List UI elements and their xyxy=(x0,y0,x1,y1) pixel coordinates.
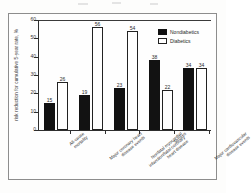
scan-artifact-3 xyxy=(150,3,158,5)
y-tick-label: 40 xyxy=(30,53,36,60)
x-axis-label-major-chd-events: Major coronary heart disease events xyxy=(108,131,146,165)
bar-value: 26 xyxy=(60,76,66,82)
bar-diabetics-major-cvd-events: 34 xyxy=(196,68,207,130)
y-tick-label: 20 xyxy=(30,89,36,96)
y-tick-label: 30 xyxy=(30,71,36,78)
legend-swatch-diabetics-icon xyxy=(158,38,167,44)
y-axis-title: risk reduction for cumulative 5-year rat… xyxy=(14,0,24,20)
plot-area: 60 50 40 30 20 10 0 xyxy=(38,20,211,130)
y-tick-label: 50 xyxy=(30,34,36,41)
x-axis-label-all-cause-mortality: All-cause mortality xyxy=(68,131,89,151)
y-tick-label: 10 xyxy=(30,108,36,115)
bar-diabetics-strokes: 22 xyxy=(162,90,173,130)
bar-value: 54 xyxy=(130,25,136,31)
y-axis-title-text: risk reduction for cumulative 5-year rat… xyxy=(14,20,19,130)
bar-value: 34 xyxy=(186,62,192,68)
bar-value: 56 xyxy=(95,21,101,27)
bar-nondiabetics-major-cvd-events: 34 xyxy=(183,68,194,130)
plot-top-border xyxy=(38,20,211,21)
x-axis-labels: All-cause mortality Major coronary heart… xyxy=(38,131,211,179)
bar-diabetics-all-cause-mortality: 26 xyxy=(57,82,68,130)
bar-value: 23 xyxy=(117,82,123,88)
bar-value: 38 xyxy=(152,54,158,60)
bar-value: 22 xyxy=(165,84,171,90)
bar-nondiabetics-all-cause-mortality: 15 xyxy=(44,103,55,131)
bar-nondiabetics-nonfatal-mi-fatal-chd: 23 xyxy=(114,88,125,130)
legend: Nondiabetics Diabetics xyxy=(156,26,201,48)
legend-label-nondiabetics: Nondiabetics xyxy=(170,29,199,35)
bar-diabetics-nonfatal-mi-fatal-chd: 54 xyxy=(127,31,138,130)
bar-value: 34 xyxy=(199,62,205,68)
bar-nondiabetics-strokes: 38 xyxy=(149,60,160,130)
y-tick-label: 60 xyxy=(30,16,36,23)
scan-artifact-1 xyxy=(78,3,88,5)
bar-diabetics-major-chd-events: 56 xyxy=(92,27,103,130)
bar-value: 15 xyxy=(47,97,53,103)
legend-item-nondiabetics: Nondiabetics xyxy=(158,28,199,36)
y-tick-label: 0 xyxy=(33,126,36,133)
scan-artifact-2 xyxy=(112,2,121,4)
bar-nondiabetics-major-chd-events: 19 xyxy=(79,95,90,130)
figure: risk reduction for cumulative 5-year rat… xyxy=(0,0,226,193)
bar-value: 19 xyxy=(82,89,88,95)
legend-swatch-nondiabetics-icon xyxy=(158,29,167,35)
y-axis-line xyxy=(38,20,39,131)
legend-item-diabetics: Diabetics xyxy=(158,37,199,45)
legend-label-diabetics: Diabetics xyxy=(170,38,191,44)
